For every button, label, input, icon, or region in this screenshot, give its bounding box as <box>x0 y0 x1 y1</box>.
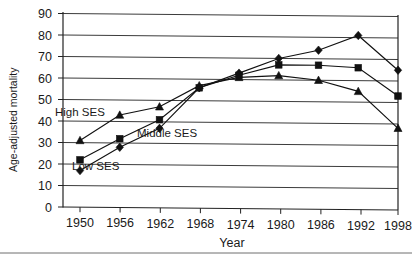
line-chart-svg: 90 80 70 60 50 40 30 20 10 0 Age-adjuste… <box>0 0 412 259</box>
x-tick-label-1980: 1980 <box>267 218 295 232</box>
data-point-square <box>315 62 322 69</box>
gridline-40 <box>63 121 398 124</box>
y-tick-label-20: 20 <box>38 158 52 172</box>
gridline-90 <box>63 14 398 17</box>
gridline-50 <box>63 100 398 103</box>
x-tick-label-1968: 1968 <box>186 217 214 231</box>
y-tick-label-80: 80 <box>38 29 52 43</box>
gridline-80 <box>63 35 398 38</box>
x-tick-label-1986: 1986 <box>307 218 335 232</box>
chart-figure: 90 80 70 60 50 40 30 20 10 0 Age-adjuste… <box>0 0 412 259</box>
y-tick-label-40: 40 <box>38 115 52 129</box>
data-point-diamond <box>116 143 123 151</box>
series-line <box>80 76 398 141</box>
series-label-high-ses: High SES <box>55 106 105 118</box>
x-axis-line <box>63 207 398 210</box>
data-point-triangle <box>275 71 283 78</box>
y-tick-label-30: 30 <box>38 136 52 150</box>
y-tick-label-90: 90 <box>38 7 52 21</box>
plot-frame <box>63 12 398 210</box>
data-point-triangle <box>76 136 84 143</box>
data-point-diamond <box>315 46 322 54</box>
gridline-10 <box>63 186 398 189</box>
series-low-ses <box>76 31 401 175</box>
data-series-layer <box>76 31 402 175</box>
x-tick-label-1956: 1956 <box>106 216 134 230</box>
series-annotations: High SES Middle SES Low SES <box>55 106 197 172</box>
x-tick-label-1998: 1998 <box>384 219 412 233</box>
gridline-70 <box>63 57 398 60</box>
y-tick-label-50: 50 <box>38 93 52 107</box>
x-tick-labels: 1950 1956 1962 1968 1974 1980 1986 1992 … <box>66 216 412 233</box>
series-label-middle-ses: Middle SES <box>137 127 197 139</box>
data-point-square <box>395 93 402 100</box>
series-label-low-ses: Low SES <box>72 160 120 172</box>
x-axis-title: Year <box>219 236 244 250</box>
gridline-30 <box>63 143 398 146</box>
x-tick-label-1962: 1962 <box>146 217 174 231</box>
data-point-square <box>156 116 163 123</box>
y-tick-label-0: 0 <box>45 201 52 215</box>
y-tick-label-70: 70 <box>38 50 52 64</box>
series-high-ses <box>76 71 402 143</box>
y-axis-title: Age-adjusted mortality <box>7 67 19 172</box>
data-point-square <box>355 64 362 71</box>
data-point-square <box>116 135 123 142</box>
y-tick-label-10: 10 <box>38 179 52 193</box>
x-tick-label-1974: 1974 <box>227 218 255 232</box>
y-tick-label-60: 60 <box>38 72 52 86</box>
x-tick-label-1950: 1950 <box>66 216 94 230</box>
data-point-triangle <box>156 103 164 110</box>
x-tick-label-1992: 1992 <box>347 219 375 233</box>
y-tick-labels: 90 80 70 60 50 40 30 20 10 0 <box>38 7 52 215</box>
series-line <box>80 35 398 170</box>
data-point-square <box>275 62 282 69</box>
